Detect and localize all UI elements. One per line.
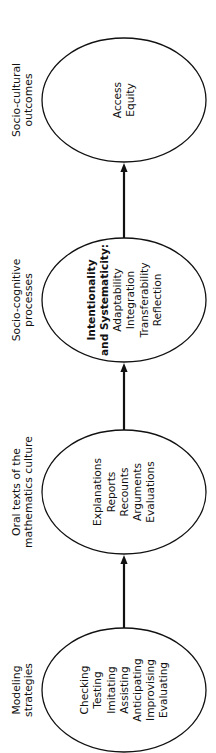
stage-items: AccessEquity bbox=[111, 82, 136, 118]
stage-label-line: Oral texts of the bbox=[10, 448, 23, 536]
stage-item: Equity bbox=[124, 83, 136, 117]
stage-node: Intentionalityand Systematicity:Adaptabi… bbox=[42, 238, 206, 362]
stage-item: Testing bbox=[91, 671, 103, 709]
arrow-head-icon bbox=[120, 555, 127, 564]
stage-item: and Systematicity: bbox=[98, 244, 110, 356]
stage-item: Access bbox=[111, 82, 123, 118]
labels-layer: ModelingstrategiesOral texts of themathe… bbox=[10, 63, 36, 717]
stage-label: Socio-culturaloutcomes bbox=[10, 63, 36, 137]
stage-label: Modelingstrategies bbox=[10, 663, 36, 717]
stage-node: CheckingTestingImitatingAssistingAnticip… bbox=[42, 628, 206, 752]
stage-item: Transferability bbox=[138, 262, 150, 338]
edges-layer bbox=[120, 163, 127, 628]
flow-arrow bbox=[120, 363, 127, 430]
stage-item: Anticipating bbox=[131, 658, 143, 722]
stage-item: Checking bbox=[78, 666, 90, 715]
arrow-head-icon bbox=[120, 163, 127, 172]
flow-arrow bbox=[120, 555, 127, 628]
stage-label-line: strategies bbox=[22, 663, 35, 717]
stage-item: Recounts bbox=[118, 468, 130, 517]
stage-label-line: mathematics culture bbox=[22, 436, 35, 548]
stage-item: Reflection bbox=[151, 274, 163, 327]
stage-label-line: Socio-cultural bbox=[10, 63, 23, 137]
stage-item: Explanations bbox=[91, 458, 103, 526]
stage-item: Imitating bbox=[105, 666, 117, 714]
stage-item: Improvising bbox=[144, 659, 156, 721]
stage-item: Assisting bbox=[118, 666, 130, 713]
stage-label-line: Modeling bbox=[10, 665, 23, 714]
stage-item: Evaluations bbox=[144, 461, 156, 522]
flow-diagram: CheckingTestingImitatingAssistingAnticip… bbox=[0, 0, 216, 753]
stage-item: Intentionality bbox=[85, 259, 97, 340]
stage-items: ExplanationsReportsRecountsArgumentsEval… bbox=[91, 458, 156, 526]
arrow-head-icon bbox=[120, 363, 127, 372]
stage-item: Arguments bbox=[131, 463, 143, 521]
stage-item: Integration bbox=[124, 271, 136, 329]
flow-arrow bbox=[120, 163, 127, 238]
stage-label-line: Socio-cognitive bbox=[10, 258, 23, 341]
stage-label: Oral texts of themathematics culture bbox=[10, 436, 36, 548]
stage-item: Adaptability bbox=[111, 268, 123, 332]
stage-label-line: processes bbox=[22, 273, 35, 327]
stage-label: Socio-cognitiveprocesses bbox=[10, 258, 36, 341]
stage-node: ExplanationsReportsRecountsArgumentsEval… bbox=[42, 430, 206, 554]
stage-item: Reports bbox=[105, 472, 117, 513]
stage-label-line: outcomes bbox=[22, 73, 35, 126]
stage-item: Evaluating bbox=[157, 662, 169, 718]
stage-node: AccessEquity bbox=[42, 38, 206, 162]
